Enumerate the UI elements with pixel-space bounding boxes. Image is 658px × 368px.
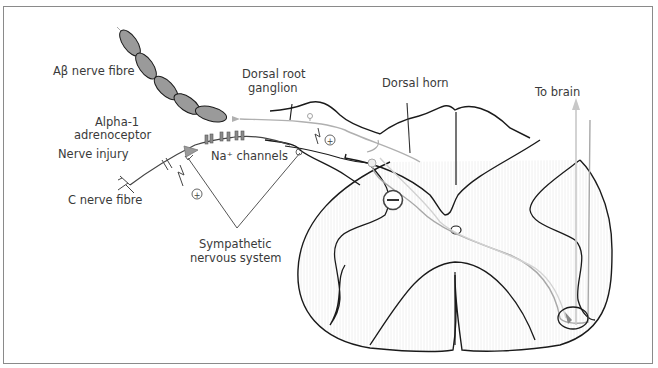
arrow-up-icon [572, 98, 580, 110]
label-na-channels: Na⁺ channels [211, 149, 288, 163]
na-channel-icons [205, 131, 244, 144]
label-sympathetic: Sympathetic [199, 237, 272, 251]
lightning-icon [315, 128, 320, 144]
dorsal-horn-leader [407, 103, 410, 153]
label-dorsal-root-ganglion: Dorsal root [242, 67, 306, 81]
inhibition-symbol [384, 191, 403, 210]
label-dorsal-root-ganglion-2: ganglion [248, 81, 298, 95]
label-adrenoceptor: adrenoceptor [74, 128, 151, 142]
alpha-1-receptor-icon [184, 146, 198, 157]
label-alpha-1: Alpha-1 [95, 115, 139, 129]
label-c-nerve-fibre: C nerve fibre [68, 193, 142, 207]
spinal-pain-pathway-diagram: + + Aβ nerve fibre Dorsal root ganglion … [0, 0, 658, 368]
svg-text:+: + [194, 191, 201, 200]
plus-icon: + [192, 189, 202, 200]
lightning-icon [178, 165, 184, 186]
label-dorsal-horn: Dorsal horn [382, 76, 449, 90]
plus-icon: + [325, 135, 335, 146]
label-nervous-system: nervous system [190, 251, 281, 265]
svg-text:+: + [327, 137, 334, 146]
label-ab-nerve-fibre: Aβ nerve fibre [53, 64, 135, 78]
label-nerve-injury: Nerve injury [58, 147, 129, 161]
label-to-brain: To brain [534, 85, 580, 99]
